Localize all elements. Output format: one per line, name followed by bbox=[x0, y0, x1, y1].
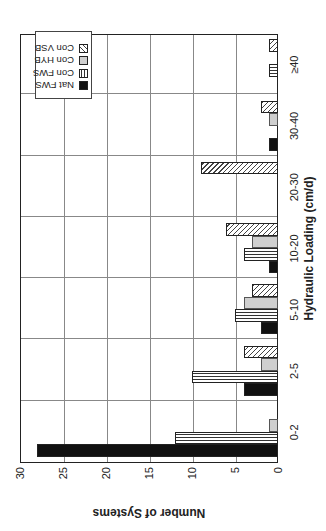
x-tick-label: 0-2 bbox=[288, 424, 300, 440]
bar-con-vsb-≥40 bbox=[269, 39, 278, 52]
legend-swatch bbox=[79, 69, 88, 78]
bar-con-fws-2-5 bbox=[192, 371, 278, 384]
bar-con-fws-≥40 bbox=[269, 64, 278, 77]
bar-con-hyb-0-2 bbox=[269, 420, 278, 433]
bar-nat-fws-30-40 bbox=[269, 138, 278, 151]
legend-swatch bbox=[79, 57, 88, 66]
bar-con-fws-10-20 bbox=[244, 248, 278, 261]
x-tick-label: ≥40 bbox=[288, 56, 300, 74]
gridline-vertical bbox=[21, 216, 277, 217]
legend-swatch bbox=[79, 44, 88, 53]
bar-con-vsb-20-30 bbox=[201, 162, 278, 175]
x-axis-label: Hydraulic Loading (cm/d) bbox=[302, 34, 316, 463]
bar-nat-fws-5-10 bbox=[261, 322, 278, 335]
bar-con-hyb-10-20 bbox=[252, 236, 278, 249]
bar-nat-fws-0-2 bbox=[37, 445, 278, 458]
bar-con-vsb-30-40 bbox=[261, 101, 278, 114]
y-tick-label: 25 bbox=[57, 467, 69, 491]
gridline-horizontal bbox=[150, 35, 151, 462]
y-tick-label: 20 bbox=[100, 467, 112, 491]
legend-content: Nat FWSCon FWSCon HYBCon VSB bbox=[36, 30, 93, 98]
legend-label: Con HYB bbox=[34, 56, 74, 67]
bar-con-hyb-30-40 bbox=[269, 113, 278, 126]
bar-con-hyb-2-5 bbox=[261, 358, 278, 371]
x-tick-label: 30-40 bbox=[288, 112, 300, 140]
legend-item: Con HYB bbox=[34, 56, 88, 66]
y-axis-label: Number of Systems bbox=[93, 506, 206, 520]
y-tick-label: 5 bbox=[229, 467, 241, 491]
x-tick-label: 10-20 bbox=[288, 234, 300, 262]
legend-swatch bbox=[79, 82, 88, 91]
gridline-vertical bbox=[21, 338, 277, 339]
legend-label: Con VSB bbox=[35, 43, 74, 54]
bar-con-fws-0-2 bbox=[175, 432, 278, 445]
gridline-horizontal bbox=[107, 35, 108, 462]
y-tick-label: 0 bbox=[272, 467, 284, 491]
y-tick-label: 30 bbox=[14, 467, 26, 491]
gridline-vertical bbox=[21, 155, 277, 156]
bar-con-vsb-5-10 bbox=[252, 284, 278, 297]
bar-con-vsb-10-20 bbox=[226, 223, 278, 236]
legend-item: Con VSB bbox=[35, 44, 88, 54]
rotated-chart-figure: 051015202530 0-22-55-1010-2020-3030-40≥4… bbox=[0, 0, 326, 531]
gridline-horizontal bbox=[236, 35, 237, 462]
x-tick-label: 20-30 bbox=[288, 173, 300, 201]
y-tick-label: 10 bbox=[186, 467, 198, 491]
gridline-horizontal bbox=[193, 35, 194, 462]
gridline-vertical bbox=[21, 277, 277, 278]
bar-con-hyb-5-10 bbox=[244, 297, 278, 310]
x-tick-label: 5-10 bbox=[288, 299, 300, 321]
bar-nat-fws-2-5 bbox=[244, 383, 278, 396]
bar-nat-fws-10-20 bbox=[269, 261, 278, 274]
legend-label: Nat FWS bbox=[35, 81, 74, 92]
gridline-vertical bbox=[21, 400, 277, 401]
bar-con-fws-5-10 bbox=[235, 309, 278, 322]
legend-item: Nat FWS bbox=[35, 81, 88, 91]
legend-item: Con FWS bbox=[33, 69, 88, 79]
bar-con-vsb-2-5 bbox=[244, 346, 278, 359]
y-tick-label: 15 bbox=[143, 467, 155, 491]
x-tick-label: 2-5 bbox=[288, 363, 300, 379]
legend-label: Con FWS bbox=[33, 68, 74, 79]
legend: Nat FWSCon FWSCon HYBCon VSB bbox=[35, 31, 92, 99]
gridline-horizontal bbox=[64, 35, 65, 462]
